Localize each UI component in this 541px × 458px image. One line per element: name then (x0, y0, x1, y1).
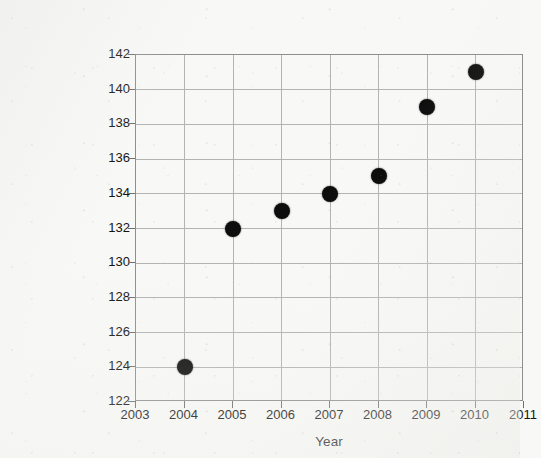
y-axis-tick-mark (128, 158, 135, 159)
y-axis-tick-labels: 122124126128130132134136138140142 (90, 16, 130, 458)
y-axis-tick-mark (128, 54, 135, 55)
y-axis-tick-label: 140 (96, 82, 130, 96)
y-axis-tick-label: 142 (96, 47, 130, 61)
data-point (225, 221, 241, 237)
data-point (177, 359, 193, 375)
plot-area (135, 54, 523, 401)
y-axis-tick-label: 122 (96, 394, 130, 408)
y-axis-tick-mark (128, 262, 135, 263)
y-axis-tick-mark (128, 193, 135, 194)
data-point (371, 168, 387, 184)
x-axis-tick-label: 2011 (495, 407, 541, 423)
y-axis-tick-label: 136 (96, 151, 130, 165)
gridline-vertical (281, 55, 282, 400)
y-axis-tick-mark (128, 332, 135, 333)
gridline-vertical (475, 55, 476, 400)
y-axis-tick-label: 132 (96, 221, 130, 235)
data-point (274, 203, 290, 219)
gridline-vertical (330, 55, 331, 400)
gridline-vertical (184, 55, 185, 400)
y-axis-tick-mark (128, 228, 135, 229)
y-axis-tick-label: 128 (96, 290, 130, 304)
y-axis-tick-label: 124 (96, 359, 130, 373)
y-axis-tick-label: 126 (96, 325, 130, 339)
data-point (468, 64, 484, 80)
y-axis-tick-mark (128, 401, 135, 402)
x-axis-title: Year (135, 434, 523, 449)
y-axis-tick-label: 130 (96, 255, 130, 269)
y-axis-tick-mark (128, 89, 135, 90)
y-axis-tick-mark (128, 366, 135, 367)
gridline-vertical (378, 55, 379, 400)
scatter-plot-figure: High School graduates (in thousands) 122… (40, 16, 480, 442)
data-point (419, 99, 435, 115)
y-axis-tick-label: 134 (96, 186, 130, 200)
data-point (322, 186, 338, 202)
y-axis-tick-label: 138 (96, 116, 130, 130)
y-axis-tick-mark (128, 297, 135, 298)
y-axis-tick-mark (128, 123, 135, 124)
